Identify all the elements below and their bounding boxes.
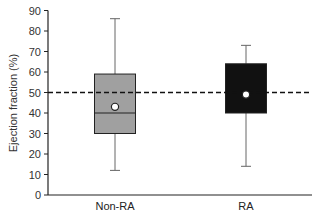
mean-marker xyxy=(111,103,118,110)
x-category-label-non-ra: Non-RA xyxy=(95,200,135,212)
y-tick-label: 20 xyxy=(29,148,41,160)
y-tick-label: 40 xyxy=(29,107,41,119)
y-tick-label: 90 xyxy=(29,5,41,17)
y-tick-label: 80 xyxy=(29,25,41,37)
box-plot-chart: 0102030405060708090 Ejection fraction (%… xyxy=(0,0,319,216)
y-tick-label: 30 xyxy=(29,128,41,140)
box-ra xyxy=(226,45,267,166)
box-non-ra xyxy=(95,19,136,171)
y-tick-label: 0 xyxy=(35,189,41,201)
mean-marker xyxy=(242,91,249,98)
y-tick-label: 10 xyxy=(29,169,41,181)
x-category-label-ra: RA xyxy=(238,200,254,212)
y-axis: 0102030405060708090 xyxy=(29,5,312,202)
iqr-box xyxy=(226,64,267,113)
y-tick-label: 60 xyxy=(29,66,41,78)
y-axis-title: Ejection fraction (%) xyxy=(7,54,19,152)
y-tick-label: 50 xyxy=(29,87,41,99)
y-tick-label: 70 xyxy=(29,46,41,58)
boxes xyxy=(95,19,267,171)
